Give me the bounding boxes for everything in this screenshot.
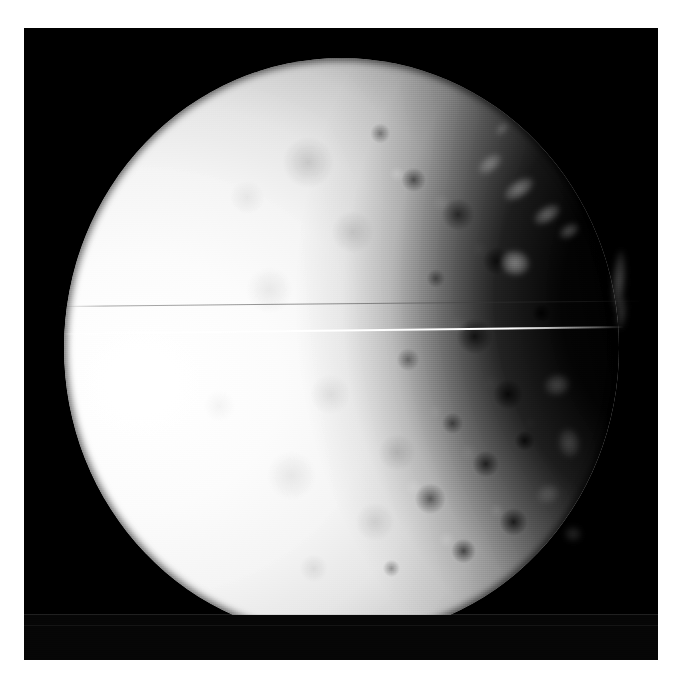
plate-bottom-band xyxy=(24,615,658,660)
crater-field-dark xyxy=(64,58,619,638)
photo-page xyxy=(0,0,675,681)
crater-field-soft xyxy=(64,58,619,638)
limb-softening xyxy=(64,58,619,638)
terminator-shadow xyxy=(64,58,619,638)
crater-rim-highlights xyxy=(64,58,619,638)
image-frame xyxy=(24,28,658,660)
plate-seam-line-secondary xyxy=(24,625,658,626)
moon-disc xyxy=(64,58,619,638)
glint-se-spot xyxy=(564,526,582,542)
plate-seam-line xyxy=(24,614,658,615)
